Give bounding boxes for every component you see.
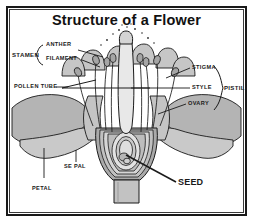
label-style: STYLE [192,85,212,91]
label-sepal: SE PAL [64,164,86,170]
stem-pedicel [114,180,139,203]
label-pollen-tube: POLLEN TUBE [14,84,57,90]
stigma-tip [119,31,132,44]
label-anther: ANTHER [46,42,71,48]
label-petal: PETAL [32,186,52,192]
label-pistil: PISTIL [224,85,245,91]
pollen-tube-structure [62,80,150,88]
label-stigma: STIGMA [192,65,216,71]
label-filament: FILAMENT [46,56,77,62]
ovary-chamber [112,132,140,170]
label-seed: SEED [178,178,203,187]
flower-diagram-figure: Structure of a Flower [0,0,253,222]
label-stamen: STAMEN [12,52,39,58]
label-ovary: OVARY [188,101,209,107]
